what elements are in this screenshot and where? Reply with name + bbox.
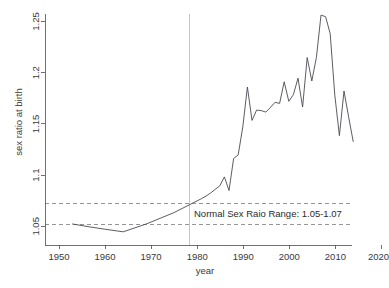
x-tick-label-1970: 1970 <box>141 251 162 262</box>
y-tick-label-1-05: 1.05 <box>30 217 41 236</box>
y-tick-label-1-20: 1.2 <box>30 66 41 79</box>
y-tick-label-1-25: 1.25 <box>30 12 41 31</box>
x-tick-label-2010: 2010 <box>325 251 346 262</box>
x-tick-label-1980: 1980 <box>187 251 208 262</box>
y-tick-label-1-15: 1.15 <box>30 115 41 133</box>
normal-range-annotation: Normal Sex Raio Range: 1.05-1.07 <box>194 208 342 219</box>
x-tick-label-1950: 1950 <box>48 251 69 262</box>
x-tick-label-1960: 1960 <box>95 251 116 262</box>
chart-container: 1.25 1.2 1.15 1.1 1.05 sex ratio at birt… <box>0 0 389 288</box>
sex-ratio-line-chart: 1.25 1.2 1.15 1.1 1.05 sex ratio at birt… <box>0 0 389 288</box>
x-tick-label-2000: 2000 <box>279 251 300 262</box>
y-axis-title: sex ratio at birth <box>13 88 24 156</box>
x-tick-label-1990: 1990 <box>233 251 254 262</box>
y-tick-label-1-10: 1.1 <box>30 168 41 181</box>
x-tick-label-2020: 2020 <box>368 251 389 262</box>
x-axis-title: year <box>196 265 214 276</box>
